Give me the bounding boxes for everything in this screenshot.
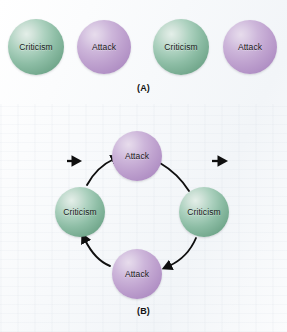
arrow-attack-bottom-to-criticism-left: [85, 240, 110, 266]
node-criticism-b-left: Criticism: [55, 187, 105, 237]
node-label: Attack: [125, 152, 149, 161]
node-criticism-b-right: Criticism: [179, 187, 229, 237]
node-label: Attack: [92, 43, 116, 52]
panel-a-linear-chain: Criticism Attack Criticism Attack (A): [0, 0, 287, 104]
node-label: Criticism: [164, 43, 197, 52]
node-criticism-a2: Criticism: [153, 19, 209, 75]
node-attack-a1: Attack: [77, 20, 131, 74]
node-attack-a2: Attack: [223, 20, 277, 74]
arrow-criticism-left-to-attack-top: [87, 159, 114, 185]
node-attack-b-bottom: Attack: [112, 249, 162, 299]
node-label: Criticism: [19, 43, 52, 52]
node-label: Attack: [238, 43, 262, 52]
panel-a-caption: (A): [0, 83, 287, 93]
node-criticism-a1: Criticism: [8, 19, 64, 75]
panel-b-caption: (B): [0, 306, 287, 316]
arrow-attack-top-to-criticism-right: [160, 163, 189, 191]
node-label: Criticism: [63, 208, 96, 217]
arrow-criticism-right-to-attack-bottom: [169, 238, 196, 266]
figure-root: Criticism Attack Criticism Attack (A): [0, 0, 287, 332]
node-label: Criticism: [187, 208, 220, 217]
node-attack-b-top: Attack: [112, 131, 162, 181]
node-label: Attack: [125, 270, 149, 279]
